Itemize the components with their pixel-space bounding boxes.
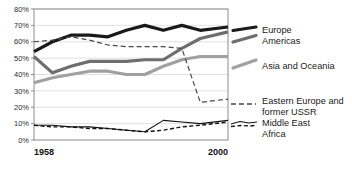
y-tick-label: 30% bbox=[14, 87, 29, 96]
x-tick-label-end: 2000 bbox=[208, 147, 228, 157]
legend-label-americas: Americas bbox=[262, 36, 301, 46]
legend-label-eastern-europe-line1: Eastern Europe and bbox=[262, 96, 344, 106]
y-tick-label: 20% bbox=[14, 103, 29, 112]
y-tick-label: 50% bbox=[14, 54, 29, 63]
y-tick-label: 10% bbox=[14, 119, 29, 128]
legend-label-europe: Europe bbox=[262, 25, 292, 35]
y-tick-label: 40% bbox=[14, 70, 29, 79]
y-tick-label: 80% bbox=[14, 5, 29, 14]
y-tick-label: 0% bbox=[18, 136, 29, 145]
legend-label-middle-east: Middle East bbox=[262, 118, 310, 128]
x-tick-label-start: 1958 bbox=[34, 147, 54, 157]
line-chart: 0%10%20%30%40%50%60%70%80% 1958 2000 bbox=[0, 0, 352, 170]
chart-svg: 0%10%20%30%40%50%60%70%80% 1958 2000 bbox=[0, 0, 352, 170]
legend-label-eastern-europe-line2: former USSR bbox=[262, 107, 317, 117]
y-tick-label: 70% bbox=[14, 21, 29, 30]
legend-label-africa: Africa bbox=[262, 129, 286, 139]
y-tick-label: 60% bbox=[14, 37, 29, 46]
legend-label-asia-and-oceania: Asia and Oceania bbox=[262, 61, 335, 71]
